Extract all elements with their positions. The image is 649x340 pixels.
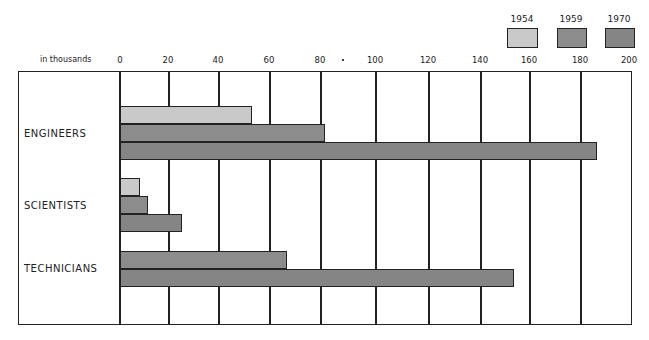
tick-label: 40 bbox=[203, 55, 233, 65]
bar-engineers-1954 bbox=[120, 106, 252, 124]
tick-label: 160 bbox=[514, 55, 544, 65]
tick-label: 200 bbox=[614, 55, 644, 65]
legend-swatch-1954 bbox=[507, 28, 538, 48]
gridline-180 bbox=[580, 71, 582, 325]
category-label-technicians: TECHNICIANS bbox=[24, 263, 97, 274]
legend-label-1954: 1954 bbox=[502, 14, 542, 24]
legend-label-1959: 1959 bbox=[551, 14, 591, 24]
legend-swatch-1970 bbox=[605, 28, 635, 48]
bar-scientists-1959 bbox=[120, 196, 148, 214]
bar-technicians-1970 bbox=[120, 269, 514, 287]
bar-scientists-1970 bbox=[120, 214, 182, 232]
category-label-engineers: ENGINEERS bbox=[24, 128, 86, 139]
gridline-160 bbox=[529, 71, 531, 325]
tick-label: 60 bbox=[254, 55, 284, 65]
legend-swatch-1959 bbox=[557, 28, 587, 48]
tick-label: 180 bbox=[565, 55, 595, 65]
bar-scientists-1954 bbox=[120, 178, 140, 196]
tick-label: 100 bbox=[360, 55, 390, 65]
stray-dot bbox=[342, 59, 344, 61]
tick-label: 0 bbox=[105, 55, 135, 65]
tick-label: 140 bbox=[465, 55, 495, 65]
tick-label: 120 bbox=[413, 55, 443, 65]
category-label-scientists: SCIENTISTS bbox=[24, 200, 87, 211]
axis-unit-label: in thousands bbox=[40, 55, 91, 64]
bar-engineers-1970 bbox=[120, 142, 597, 160]
bar-engineers-1959 bbox=[120, 124, 325, 142]
tick-label: 80 bbox=[305, 55, 335, 65]
legend-label-1970: 1970 bbox=[599, 14, 639, 24]
bar-technicians-1959 bbox=[120, 251, 287, 269]
tick-label: 20 bbox=[153, 55, 183, 65]
